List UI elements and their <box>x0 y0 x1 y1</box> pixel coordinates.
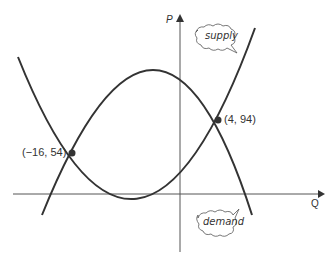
p-axis-label: P <box>166 14 173 25</box>
supply-curve <box>18 28 255 199</box>
intersection-point-2 <box>215 117 222 124</box>
supply-label: supply <box>205 30 238 41</box>
demand-curve <box>42 70 252 215</box>
chart-canvas <box>0 0 336 264</box>
demand-label: demand <box>203 216 244 227</box>
point1-label: (−16, 54) <box>22 146 66 158</box>
intersection-point-1 <box>69 150 76 157</box>
q-axis-arrow-icon <box>318 190 325 198</box>
p-axis-arrow-icon <box>176 14 184 22</box>
q-axis-label: Q <box>311 198 319 209</box>
point2-label: (4, 94) <box>224 113 256 125</box>
